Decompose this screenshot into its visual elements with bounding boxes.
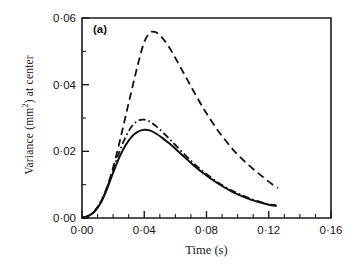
y-axis-label-main: Variance (mm (23, 107, 35, 174)
curve-dash-dot (82, 120, 277, 218)
x-tick-label: 0·04 (133, 224, 156, 236)
x-tick-label: 0·00 (70, 224, 93, 236)
x-tick-label: 0·16 (319, 224, 342, 236)
figure-panel-a: Variance (mm2) at center Time (s) (a) 0·… (0, 0, 358, 266)
curve-solid (82, 130, 277, 218)
axis-frame (82, 18, 331, 218)
tick-marks (82, 18, 331, 218)
y-axis-label-exponent: 2 (21, 103, 30, 107)
x-tick-label: 0·12 (257, 224, 280, 236)
x-tick-label: 0·08 (195, 224, 218, 236)
panel-label: (a) (93, 23, 107, 35)
y-tick-label: 0·04 (26, 79, 76, 91)
x-axis-label: Time (s) (82, 243, 331, 258)
y-axis-label: Variance (mm2) at center (21, 15, 35, 215)
curve-dashed (82, 31, 278, 218)
curves (82, 31, 278, 218)
y-tick-label: 0·00 (26, 212, 76, 224)
plot-area (0, 0, 358, 266)
y-tick-label: 0·02 (26, 145, 76, 157)
y-tick-label: 0·06 (26, 12, 76, 24)
